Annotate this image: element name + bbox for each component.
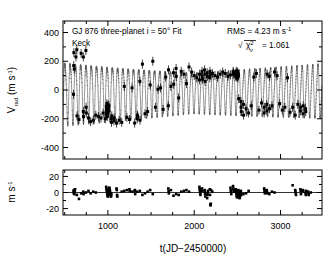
residual-point	[185, 189, 188, 192]
residual-point	[85, 191, 88, 194]
residual-point	[211, 190, 214, 193]
xaxis-label: t(JD−2450000)	[160, 243, 226, 254]
chi-value: = 1.061	[262, 41, 290, 50]
residual-point	[183, 190, 186, 193]
residual-point	[206, 192, 209, 195]
residual-point	[73, 190, 76, 193]
residual-point	[92, 190, 95, 193]
residual-point	[172, 194, 175, 197]
residual-point	[115, 189, 118, 192]
residual-point	[242, 193, 245, 196]
ylabel-unit: (m s	[6, 76, 17, 98]
xtick-label: 1000	[98, 221, 118, 231]
residual-point	[229, 186, 232, 189]
residual-point	[76, 194, 79, 197]
residual-point	[131, 190, 134, 193]
residual-point	[209, 194, 212, 197]
residual-point	[168, 192, 171, 195]
residual-point	[230, 190, 233, 193]
residual-point	[136, 190, 139, 193]
residual-point	[199, 190, 202, 193]
residual-point	[302, 190, 305, 193]
residual-point	[146, 190, 149, 193]
residual-point	[87, 190, 90, 193]
residual-point	[299, 190, 302, 193]
residual-point	[198, 186, 201, 189]
residual-point	[271, 190, 274, 193]
residual-point	[95, 191, 98, 194]
residual-point	[110, 193, 113, 196]
residual-point	[134, 189, 137, 192]
residual-ylabel-exp: -1	[7, 181, 13, 187]
residual-point	[116, 195, 119, 198]
ytick-label: 0	[54, 85, 59, 95]
observatory-label: Keck	[72, 39, 91, 48]
residual-point	[204, 193, 207, 196]
residual-point	[295, 194, 298, 197]
ytick-label: -20	[46, 204, 59, 214]
ylabel-rad: rad	[13, 98, 19, 107]
residual-point	[177, 194, 180, 197]
residual-point	[232, 185, 235, 188]
rms-annotation: RMS = 4.23 m s-1	[227, 26, 292, 36]
residual-point	[309, 191, 312, 194]
residual-point	[120, 190, 123, 193]
residual-point	[144, 192, 147, 195]
chi-sqrt-symbol: √	[238, 41, 243, 50]
residual-point	[230, 193, 233, 196]
residual-point	[268, 193, 271, 196]
residual-point	[201, 190, 204, 193]
rms-exponent: -1	[286, 26, 292, 32]
ytick-label: 200	[44, 56, 59, 66]
residual-point	[206, 197, 209, 200]
residual-point	[134, 193, 137, 196]
residual-point	[300, 193, 303, 196]
residual-point	[240, 194, 243, 197]
residual-point	[128, 190, 131, 193]
ytick-label: 20	[49, 172, 59, 182]
rms-text: RMS = 4.23 m s	[227, 27, 286, 36]
residual-point	[151, 193, 154, 196]
residual-point	[167, 187, 170, 190]
plot-title: GJ 876 three-planet i = 50° Fit	[72, 27, 182, 36]
residual-point	[141, 194, 144, 197]
residual-point	[89, 192, 92, 195]
ytick-label: -400	[41, 143, 59, 153]
ytick-label: -200	[41, 114, 59, 124]
residual-point	[307, 194, 310, 197]
residual-point	[204, 190, 207, 193]
residual-point	[139, 190, 142, 193]
residual-point	[78, 198, 81, 201]
residual-point	[188, 190, 191, 193]
residual-point	[273, 191, 276, 194]
residual-point	[180, 190, 183, 193]
residual-point	[73, 193, 76, 196]
ytick-label: 400	[44, 28, 59, 38]
residual-point	[240, 190, 243, 193]
radial-velocity-figure: 4002000-200-400 Vrad (m s-1) GJ 876 thre…	[0, 0, 336, 269]
xtick-label: 3000	[271, 221, 291, 231]
residual-point	[201, 187, 204, 190]
ytick-label: 0	[54, 188, 59, 198]
residual-point	[82, 193, 85, 196]
residual-point	[305, 194, 308, 197]
ylabel-unit-end: )	[6, 67, 17, 70]
residual-point	[167, 190, 170, 193]
residual-point	[170, 189, 173, 192]
residual-ylabel-text: m s	[6, 187, 17, 203]
residual-point	[199, 194, 202, 197]
figure-canvas: 4002000-200-400 Vrad (m s-1) GJ 876 thre…	[0, 0, 336, 269]
xtick-label: 2000	[184, 221, 204, 231]
residual-point	[123, 190, 126, 193]
residual-point	[82, 190, 85, 193]
residual-point	[210, 202, 213, 205]
residual-point	[247, 190, 250, 193]
residual-point	[149, 189, 152, 192]
residual-point	[245, 192, 248, 195]
residual-point	[291, 184, 294, 187]
residual-point	[175, 193, 178, 196]
residual-point	[74, 188, 77, 191]
residual-point	[126, 189, 129, 192]
